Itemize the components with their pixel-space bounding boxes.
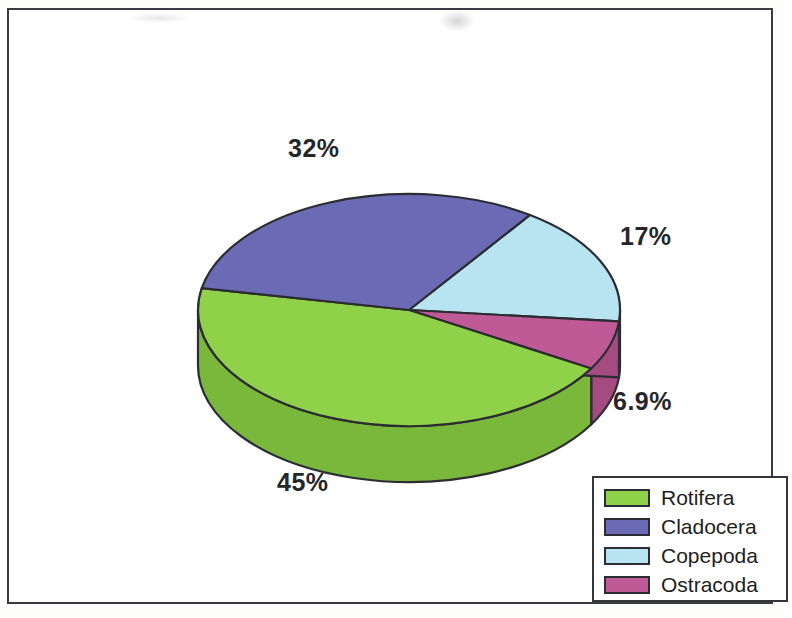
slice-label-ostracoda: 6.9% [613, 387, 672, 416]
legend-item-rotifera[interactable]: Rotifera [604, 483, 786, 512]
legend-swatch-rotifera [604, 489, 650, 507]
legend-label-cladocera: Cladocera [661, 516, 757, 537]
legend-swatch-cladocera [604, 518, 650, 536]
legend-label-rotifera: Rotifera [661, 487, 735, 508]
legend-item-copepoda[interactable]: Copepoda [604, 541, 786, 570]
legend-item-ostracoda[interactable]: Ostracoda [604, 570, 786, 599]
legend-swatch-ostracoda [604, 576, 650, 594]
legend-swatch-copepoda [604, 547, 650, 565]
chart-legend: Rotifera Cladocera Copepoda Ostracoda [592, 476, 788, 602]
slice-label-copepoda: 17% [620, 222, 672, 251]
slice-label-cladocera: 32% [288, 134, 340, 163]
slice-label-rotifera: 45% [277, 468, 329, 497]
legend-label-copepoda: Copepoda [661, 545, 758, 566]
pie-top-faces [198, 194, 620, 426]
legend-label-ostracoda: Ostracoda [661, 574, 758, 595]
chart-frame: 32% 17% 6.9% 45% Rotifera Cladocera Cope… [7, 8, 773, 604]
legend-item-cladocera[interactable]: Cladocera [604, 512, 786, 541]
